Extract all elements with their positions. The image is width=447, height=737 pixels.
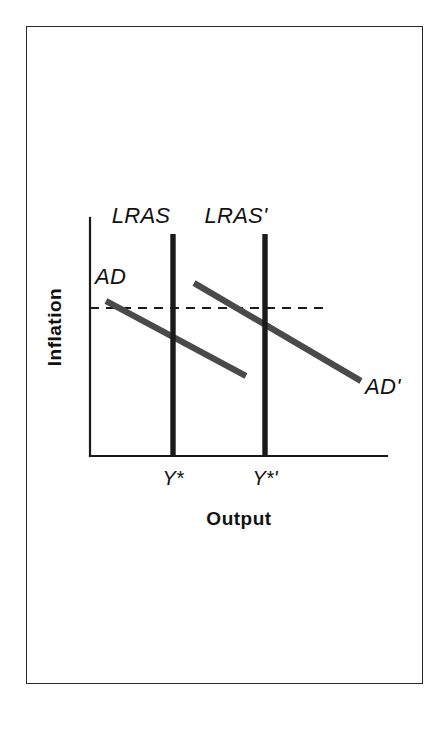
figure-root: LRAS LRAS' AD AD' Y* Y*' Output Inflatio… <box>0 0 447 737</box>
ad-curve <box>106 301 246 376</box>
ad-label: AD <box>93 264 126 289</box>
lras-prime-label: LRAS' <box>204 203 268 228</box>
x-axis-title: Output <box>206 508 271 529</box>
x-tick-label-y-star-prime: Y*' <box>253 467 279 489</box>
ad-prime-curve <box>194 283 361 381</box>
ad-lras-chart: LRAS LRAS' AD AD' Y* Y*' Output Inflatio… <box>27 27 421 682</box>
lras-label: LRAS <box>112 203 171 228</box>
x-tick-label-y-star: Y* <box>162 467 184 489</box>
y-axis-title: Inflation <box>44 288 65 366</box>
figure-border: LRAS LRAS' AD AD' Y* Y*' Output Inflatio… <box>26 26 423 684</box>
ad-prime-label: AD' <box>363 374 401 399</box>
